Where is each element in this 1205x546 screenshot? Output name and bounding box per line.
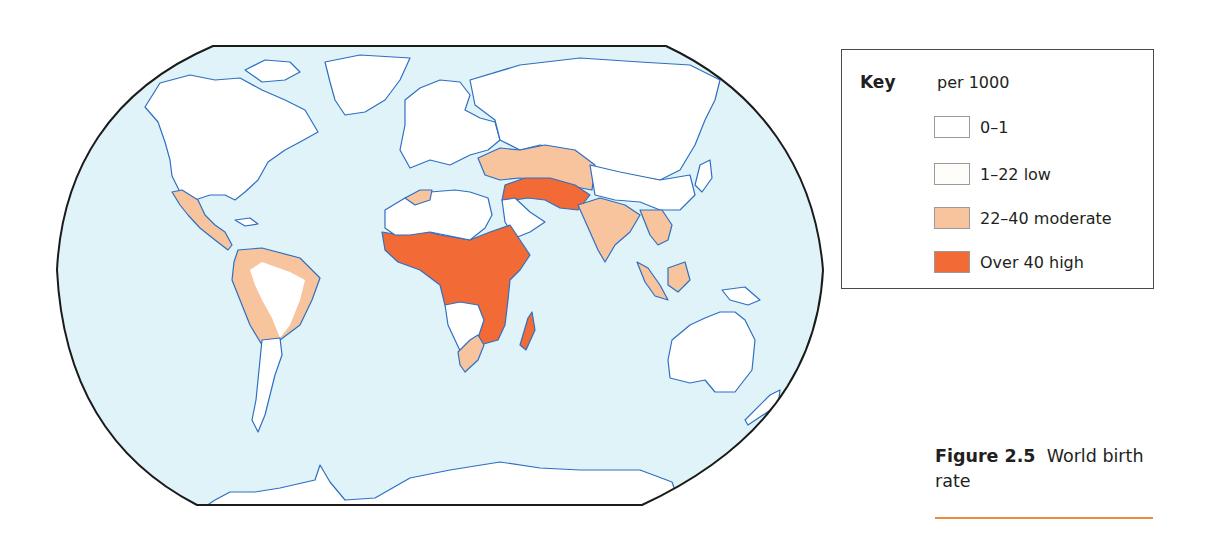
key-item-moderate: 22–40 moderate — [934, 206, 1112, 230]
swatch-22-40 — [934, 207, 970, 229]
figure-number: Figure 2.5 — [935, 446, 1036, 466]
key-item-high: Over 40 high — [934, 250, 1084, 274]
map-key: Key per 1000 0–1 1–22 low 22–40 moderate… — [841, 49, 1154, 289]
key-label: Over 40 high — [980, 253, 1084, 272]
key-label: 0–1 — [980, 118, 1008, 137]
figure-caption: Figure 2.5 World birth rate — [935, 444, 1165, 494]
caption-accent-rule — [935, 517, 1153, 519]
key-label: 1–22 low — [980, 165, 1051, 184]
map-svg — [0, 0, 840, 546]
swatch-1-22 — [934, 163, 970, 185]
key-title: Key — [860, 72, 896, 92]
world-birth-rate-map — [0, 0, 840, 546]
key-item-very-low: 0–1 — [934, 115, 1008, 139]
swatch-0-1 — [934, 116, 970, 138]
swatch-over-40 — [934, 251, 970, 273]
key-item-low: 1–22 low — [934, 162, 1051, 186]
key-label: 22–40 moderate — [980, 209, 1112, 228]
key-unit: per 1000 — [937, 73, 1009, 92]
